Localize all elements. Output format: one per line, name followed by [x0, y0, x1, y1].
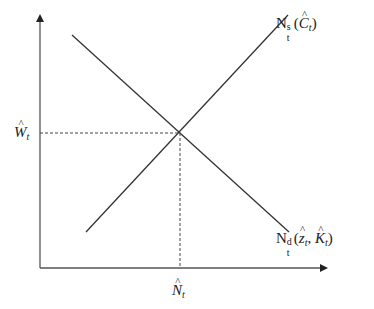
demand-close-paren: )	[328, 230, 333, 246]
x-axis-label: ^Nt	[172, 283, 185, 300]
supply-curve	[86, 15, 288, 232]
hat: ^	[300, 224, 305, 235]
y-axis-label: ^Wt	[14, 125, 29, 142]
hat: ^	[175, 276, 180, 287]
supply-sub: t	[287, 33, 290, 43]
supply-sup: s	[287, 22, 291, 32]
demand-sep: ,	[307, 230, 315, 246]
hat: ^	[18, 118, 23, 129]
demand-sup: d	[287, 237, 292, 247]
hat: ^	[302, 9, 307, 20]
supply-close-paren: )	[312, 15, 317, 31]
supply-curve-label: Nst(^Ct)	[276, 16, 317, 33]
demand-base: N	[276, 230, 287, 246]
demand-sub: t	[287, 248, 290, 258]
demand-curve-label: Ndt(^zt, ^Kt)	[276, 231, 333, 248]
supply-base: N	[276, 15, 287, 31]
labor-market-diagram	[0, 0, 374, 309]
x-label-sub: t	[182, 289, 185, 300]
hat: ^	[318, 224, 323, 235]
